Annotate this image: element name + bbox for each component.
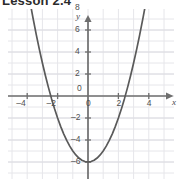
y-tick-label: –4 — [71, 134, 80, 144]
x-axis-label: x — [172, 97, 176, 107]
x-tick-label: –2 — [47, 98, 56, 108]
coordinate-plane: y x –4–2024 –8–6–4–224680 — [0, 9, 181, 179]
x-tick-label: 0 — [86, 98, 91, 108]
y-tick-label: 6 — [75, 24, 80, 34]
graph-screenshot: Lesson 2.4 y x –4–2024 –8–6–4–224680 — [0, 0, 181, 179]
y-axis-label: y — [76, 11, 80, 21]
y-tick-label: 8 — [75, 2, 80, 12]
x-tick-label: –4 — [16, 98, 25, 108]
lesson-caption: Lesson 2.4 — [0, 0, 181, 9]
y-tick-label: 4 — [75, 46, 80, 56]
graph-svg — [0, 9, 181, 179]
y-tick-label: –8 — [71, 178, 80, 179]
y-tick-label: –6 — [71, 156, 80, 166]
origin-label: 0 — [77, 83, 82, 93]
x-tick-label: 2 — [116, 98, 121, 108]
x-tick-label: 4 — [147, 98, 152, 108]
y-tick-label: 2 — [75, 68, 80, 78]
y-tick-label: –2 — [71, 112, 80, 122]
caption-text: Lesson 2.4 — [2, 0, 71, 8]
